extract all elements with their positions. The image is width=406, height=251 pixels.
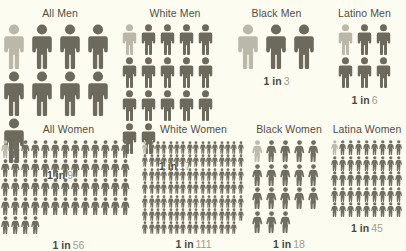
person-icon xyxy=(91,197,100,215)
person-icon xyxy=(174,153,180,166)
person-icon xyxy=(200,167,206,180)
person-icon xyxy=(168,207,174,220)
person-icon xyxy=(168,167,174,180)
person-icon xyxy=(231,220,237,233)
person-icon xyxy=(206,167,212,180)
person-icon xyxy=(121,140,130,158)
person-icon xyxy=(41,178,50,196)
person-icon xyxy=(81,159,90,177)
person-icon xyxy=(357,57,372,88)
person-icon xyxy=(168,180,174,193)
person-icon xyxy=(11,159,20,177)
group-title: All Men xyxy=(42,7,78,19)
person-icon xyxy=(379,171,387,186)
group-white-women: White Women 1 in111 xyxy=(137,116,250,250)
caption-lead: 1 in xyxy=(351,222,369,234)
person-icon xyxy=(193,220,199,233)
person-icon xyxy=(111,159,120,177)
person-icon xyxy=(180,180,186,193)
person-icon xyxy=(161,194,167,207)
person-icon xyxy=(149,220,155,233)
person-icon xyxy=(219,207,225,220)
caption-lead: 1 in xyxy=(264,75,282,87)
person-icon xyxy=(339,171,347,186)
person-icon xyxy=(61,178,70,196)
person-icon xyxy=(379,140,387,155)
person-icon xyxy=(363,171,371,186)
person-icon xyxy=(101,140,110,158)
person-icon xyxy=(395,187,403,202)
person-icon xyxy=(187,194,193,207)
person-icon xyxy=(212,153,218,166)
person-icon xyxy=(155,194,161,207)
person-icon xyxy=(231,140,237,153)
person-icon xyxy=(355,140,363,155)
person-icon xyxy=(363,140,371,155)
group-title: White Women xyxy=(160,123,227,135)
icon-grid-latino-men xyxy=(336,24,394,90)
group-title: Latino Men xyxy=(338,7,391,19)
women-row: All Women 1 in56 White Women 1 in111 Bla… xyxy=(0,116,406,233)
group-title: White Men xyxy=(149,7,200,19)
person-icon xyxy=(371,187,379,202)
person-icon xyxy=(331,187,339,202)
group-latino-men: Latino Men 1 in6 xyxy=(323,0,406,106)
person-icon xyxy=(219,180,225,193)
person-icon xyxy=(238,167,244,180)
person-icon xyxy=(51,197,60,215)
person-icon xyxy=(238,153,244,166)
person-icon xyxy=(142,153,148,166)
icon-grid-black-men xyxy=(234,24,319,71)
person-icon xyxy=(308,140,319,162)
person-icon xyxy=(174,140,180,153)
group-title: Latina Women xyxy=(333,123,402,135)
person-icon xyxy=(149,140,155,153)
person-icon xyxy=(347,156,355,171)
person-icon xyxy=(180,194,186,207)
person-icon xyxy=(280,140,291,162)
person-icon xyxy=(71,197,80,215)
person-icon xyxy=(193,167,199,180)
person-icon xyxy=(238,180,244,193)
icon-grid-wrap xyxy=(323,24,406,90)
person-icon xyxy=(338,57,353,88)
person-icon xyxy=(71,140,80,158)
person-icon xyxy=(355,171,363,186)
person-icon xyxy=(363,202,371,217)
person-icon xyxy=(200,180,206,193)
person-icon xyxy=(21,178,30,196)
person-icon xyxy=(87,71,109,116)
group-black-men: Black Men 1 in3 xyxy=(230,0,323,87)
person-icon xyxy=(225,207,231,220)
person-icon xyxy=(225,167,231,180)
person-icon xyxy=(193,140,199,153)
person-icon xyxy=(180,220,186,233)
caption-number: 3 xyxy=(284,75,290,87)
person-icon xyxy=(219,220,225,233)
person-icon xyxy=(347,140,355,155)
person-icon xyxy=(91,178,100,196)
person-icon xyxy=(174,207,180,220)
person-icon xyxy=(122,57,137,88)
person-icon xyxy=(1,159,10,177)
person-icon xyxy=(187,220,193,233)
person-icon xyxy=(149,180,155,193)
caption-white-women: 1 in111 xyxy=(175,238,211,250)
caption-lead: 1 in xyxy=(273,238,291,250)
person-icon xyxy=(355,187,363,202)
men-row: All Men 1 in9 White Men 1 in17 Black Men xyxy=(0,0,406,116)
person-icon xyxy=(41,197,50,215)
person-icon xyxy=(200,207,206,220)
person-icon xyxy=(21,197,30,215)
person-icon xyxy=(61,197,70,215)
person-icon xyxy=(252,187,263,209)
person-icon xyxy=(200,153,206,166)
person-icon xyxy=(219,194,225,207)
person-icon xyxy=(187,180,193,193)
person-icon xyxy=(101,178,110,196)
person-icon xyxy=(168,220,174,233)
person-icon xyxy=(219,167,225,180)
person-icon xyxy=(376,24,391,55)
group-title: Black Men xyxy=(252,7,302,19)
